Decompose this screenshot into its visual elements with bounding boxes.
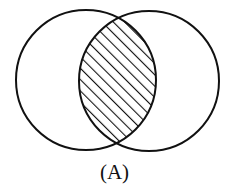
diagram-caption: (A) [0, 160, 229, 185]
